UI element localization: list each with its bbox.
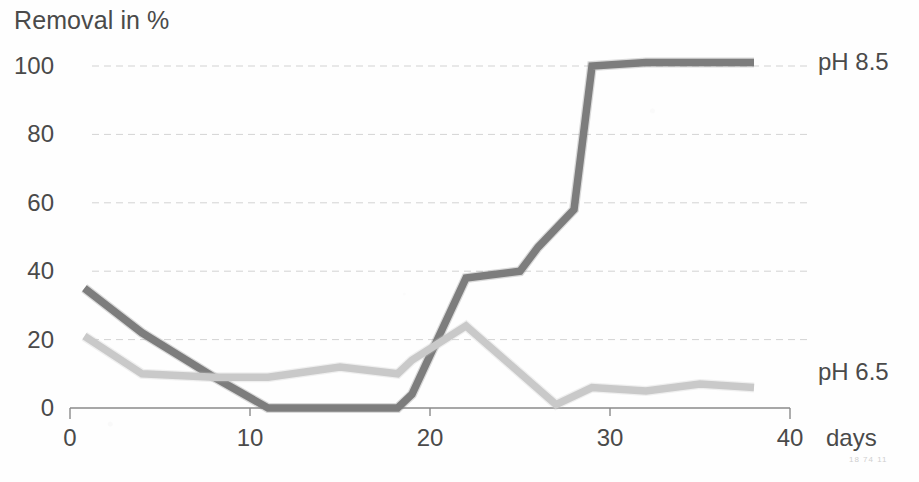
y-tick-label-40: 40 [0,257,54,285]
x-axis-unit-label: days [826,424,877,452]
x-tick-label-20: 20 [417,424,444,452]
series-line-ph-6-5 [84,326,754,405]
x-tick-label-0: 0 [63,424,76,452]
series-end-label-ph-6-5: pH 6.5 [818,358,889,386]
series-end-label-ph-8-5: pH 8.5 [818,48,889,76]
x-tick-label-30: 30 [597,424,624,452]
y-tick-label-0: 0 [0,394,54,422]
axis-lines [70,408,790,419]
y-tick-label-100: 100 [0,52,54,80]
y-tick-label-60: 60 [0,189,54,217]
x-tick-label-10: 10 [237,424,264,452]
y-tick-label-20: 20 [0,326,54,354]
plot-area [0,0,919,482]
scan-noise-artifact: 18 74 11 [849,455,895,464]
x-tick-label-40: 40 [777,424,804,452]
chart-container: Removal in % 020406080100 010203040 days… [0,0,919,482]
y-tick-label-80: 80 [0,120,54,148]
series-lines [84,63,754,408]
